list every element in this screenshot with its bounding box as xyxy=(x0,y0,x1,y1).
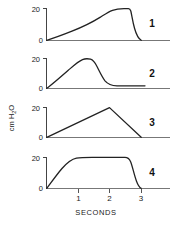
panel-4-number: 4 xyxy=(149,167,155,178)
figure-container: cm H2O 20 0 1 20 0 2 xyxy=(0,0,174,226)
y-axis-title: cm H2O xyxy=(7,105,17,132)
panel-1-number: 1 xyxy=(149,18,155,29)
panel-4-curve xyxy=(47,157,141,188)
panel-2: 20 0 2 xyxy=(32,55,170,94)
panel-1-ytick-top: 20 xyxy=(32,5,40,14)
panel-4-ytick-bottom: 0 xyxy=(39,184,43,193)
panel-2-number: 2 xyxy=(149,68,155,79)
panel-2-ytick-top: 20 xyxy=(32,55,40,64)
panel-1-y-axis xyxy=(43,9,47,41)
panel-2-ytick-bottom: 0 xyxy=(39,84,43,93)
y-axis-title-tail: O xyxy=(7,105,16,111)
svg-text:cm H2O: cm H2O xyxy=(7,105,17,132)
panel-4-y-axis xyxy=(43,158,47,189)
panel-3-curve xyxy=(47,108,141,138)
panel-1: 20 0 1 xyxy=(32,5,170,46)
panel-3: 20 0 3 xyxy=(32,104,170,143)
panel-2-y-axis xyxy=(43,59,47,89)
panel-1-curve xyxy=(47,9,141,41)
panel-4-ytick-top: 20 xyxy=(32,154,40,163)
panel-3-ytick-bottom: 0 xyxy=(39,133,43,142)
panel-3-ytick-top: 20 xyxy=(32,104,40,113)
x-axis-title: SECONDS xyxy=(75,208,116,217)
panel-4: 20 0 1 2 3 4 xyxy=(32,154,170,204)
panel-4-xticklabel-1: 1 xyxy=(76,194,81,203)
panel-1-ytick-bottom: 0 xyxy=(39,36,43,45)
multi-panel-chart: cm H2O 20 0 1 20 0 2 xyxy=(0,0,174,226)
panel-2-curve xyxy=(47,59,145,89)
panel-4-xticklabel-2: 2 xyxy=(107,194,112,203)
panel-4-xticklabel-3: 3 xyxy=(139,194,144,203)
panel-3-number: 3 xyxy=(149,117,155,128)
y-axis-title-text: cm H xyxy=(7,114,16,132)
panel-3-y-axis xyxy=(43,108,47,138)
